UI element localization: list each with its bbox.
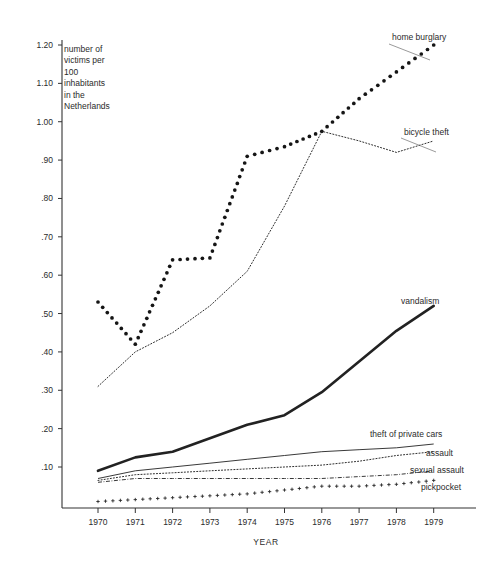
- data-point: [186, 257, 190, 261]
- data-point: [156, 497, 159, 500]
- data-point: [283, 488, 286, 491]
- y-axis-tick-label: .20: [41, 424, 53, 434]
- data-point: [133, 342, 137, 346]
- label-leader-line: [389, 44, 430, 60]
- data-point: [357, 485, 360, 488]
- series-vandalism: [98, 306, 434, 471]
- data-point: [401, 66, 405, 70]
- data-point: [149, 497, 152, 500]
- data-point: [104, 499, 107, 502]
- data-point: [268, 490, 271, 493]
- data-point: [134, 498, 137, 501]
- data-point: [159, 284, 163, 288]
- data-point: [363, 92, 367, 96]
- data-point: [124, 332, 128, 336]
- data-point: [201, 495, 204, 498]
- data-point: [148, 310, 152, 314]
- y-axis-tick-label: .90: [41, 155, 53, 165]
- data-point: [387, 483, 390, 486]
- data-point: [365, 484, 368, 487]
- data-point: [395, 70, 399, 74]
- data-point: [101, 305, 105, 309]
- data-point: [370, 88, 374, 92]
- data-point: [260, 151, 264, 155]
- y-axis-tick-label: .60: [41, 270, 53, 280]
- data-point: [216, 236, 220, 240]
- x-axis-tick-label: 1973: [200, 517, 219, 527]
- series-label-bicycle-theft: bicycle theft: [404, 127, 450, 137]
- data-point: [417, 480, 420, 483]
- series-labels-group: home burglarybicycle theftvandalismtheft…: [370, 32, 465, 492]
- data-point: [216, 494, 219, 497]
- data-point: [171, 258, 175, 262]
- data-point: [223, 493, 226, 496]
- series-label-pickpocket: pickpocket: [421, 482, 462, 492]
- x-axis-tick-label: 1972: [163, 517, 182, 527]
- x-axis-tick-label: 1978: [387, 517, 406, 527]
- data-point: [372, 484, 375, 487]
- data-point: [223, 215, 227, 219]
- data-point: [151, 303, 155, 307]
- data-point: [419, 52, 423, 56]
- data-point: [347, 106, 351, 110]
- data-point: [388, 74, 392, 78]
- data-point: [246, 492, 249, 495]
- y-axis-tick-label: 1.10: [36, 78, 53, 88]
- data-point: [413, 57, 417, 61]
- annotation-line: Netherlands: [64, 101, 110, 111]
- annotation-note: number ofvictims per100inhabitantsin the…: [64, 44, 110, 111]
- data-point: [193, 495, 196, 498]
- data-line: [98, 306, 434, 471]
- data-point: [380, 483, 383, 486]
- data-point: [225, 209, 229, 213]
- series-bicycle-theft: [98, 131, 434, 386]
- data-point: [308, 135, 312, 139]
- y-axis-tick-label: 1.20: [36, 40, 53, 50]
- axes-group: [58, 40, 476, 513]
- data-point: [283, 145, 287, 149]
- data-point: [253, 152, 257, 156]
- data-line: [98, 444, 434, 479]
- line-chart: 1.201.101.00.90.80.70.60.50.40.30.20.10 …: [0, 0, 497, 569]
- data-point: [220, 222, 224, 226]
- data-point: [243, 161, 247, 165]
- data-point: [145, 316, 149, 320]
- data-point: [171, 496, 174, 499]
- data-point: [410, 481, 413, 484]
- x-axis-tick-label: 1976: [312, 517, 331, 527]
- series-label-theft-of-private-cars: theft of private cars: [370, 429, 442, 439]
- data-point: [141, 498, 144, 501]
- data-point: [230, 195, 234, 199]
- data-point: [343, 485, 346, 488]
- series-label-assault: assault: [426, 448, 454, 458]
- data-point: [295, 140, 299, 144]
- data-point: [168, 264, 172, 268]
- data-point: [336, 115, 340, 119]
- data-point: [275, 489, 278, 492]
- data-point: [201, 256, 205, 260]
- x-axis-tick-label: 1970: [89, 517, 108, 527]
- data-point: [162, 277, 166, 281]
- data-point: [331, 120, 335, 124]
- annotation-line: inhabitants: [64, 78, 105, 88]
- data-point: [154, 297, 158, 301]
- data-point: [268, 149, 272, 153]
- annotation-line: in the: [64, 90, 85, 100]
- data-point: [105, 311, 109, 315]
- y-axis-tick-label: .80: [41, 193, 53, 203]
- series-home-burglary: [96, 43, 435, 346]
- data-point: [156, 290, 160, 294]
- series-label-home-burglary: home burglary: [392, 32, 447, 42]
- data-point: [126, 498, 129, 501]
- data-point: [289, 142, 293, 146]
- data-point: [376, 83, 380, 87]
- data-point: [136, 336, 140, 340]
- x-axis-tick-label: 1977: [350, 517, 369, 527]
- data-point: [426, 48, 430, 52]
- data-point: [178, 496, 181, 499]
- data-point: [350, 485, 353, 488]
- series-pickpocket: [96, 479, 435, 503]
- data-point: [211, 249, 215, 253]
- y-axis-tick-label: 1.00: [36, 117, 53, 127]
- y-axis-tick-label: .40: [41, 347, 53, 357]
